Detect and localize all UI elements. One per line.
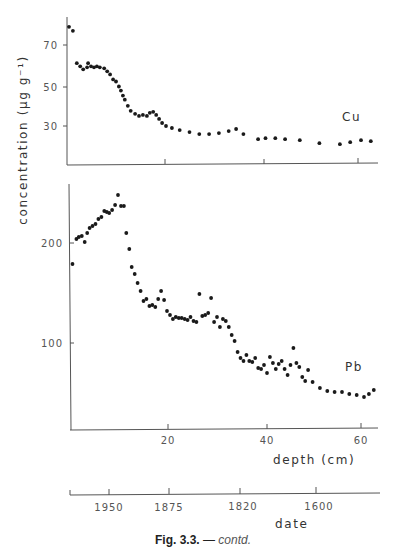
data-point [117,85,121,89]
data-point [245,353,249,357]
data-point [347,392,351,396]
data-point [102,66,106,70]
figure-canvas: concentration (μg g⁻¹) 70 50 30 Cu 200 1… [0,0,395,557]
data-point [333,390,337,394]
data-point [153,305,157,309]
data-point [124,231,128,235]
cu-series-label: Cu [342,110,361,124]
data-point [318,141,322,145]
data-point [318,386,322,390]
data-point [188,130,192,134]
data-point [100,215,104,219]
data-point [224,319,228,323]
pb-ytick-label-200: 200 [41,238,63,249]
data-point [227,129,231,133]
data-point [242,359,246,363]
data-point [168,313,172,317]
data-point [139,289,143,293]
data-point [207,132,211,136]
data-point [159,289,163,293]
pb-panel: 200 100 20 40 60 depth (cm) Pb [41,184,378,467]
data-point [86,61,90,65]
data-point [165,309,169,313]
data-point [123,98,127,102]
data-point [178,128,182,132]
data-point [259,367,263,371]
data-point [306,368,310,372]
data-point [362,395,366,399]
data-point [274,367,278,371]
data-point [218,325,222,329]
cu-x-axis [67,163,378,165]
data-point [340,390,344,394]
data-point [197,132,201,136]
data-point [286,373,290,377]
data-point [292,346,296,350]
data-point [186,318,190,322]
caption-dash: — [200,533,219,547]
data-point [154,113,158,117]
data-point [277,362,281,366]
data-point [121,94,125,98]
data-point [156,297,160,301]
data-point [189,315,193,319]
data-point [130,265,134,269]
data-point [271,361,275,365]
data-point [81,67,85,71]
data-point [298,138,302,142]
data-point [105,69,109,73]
pb-y-axis [69,184,71,430]
data-point [137,114,141,118]
data-point [164,124,168,128]
pb-data-points [71,193,376,399]
cu-panel: 70 50 30 Cu [43,17,378,165]
data-point [295,361,299,365]
cu-ytick-label-70: 70 [43,40,58,51]
data-point [233,339,237,343]
data-point [227,325,231,329]
caption-suffix: contd. [218,533,251,547]
cu-ytick-label-50: 50 [43,82,58,93]
pb-xtick-label-60: 60 [354,435,369,446]
data-point [367,392,371,396]
data-point [162,298,166,302]
caption-label: Fig. 3.3. [155,533,200,547]
data-point [110,208,114,212]
data-point [300,375,304,379]
data-point [151,110,155,114]
data-point [265,371,269,375]
data-point [212,320,216,324]
pb-series-label: Pb [345,360,363,374]
data-point [338,142,342,146]
data-point [195,320,199,324]
data-point [157,117,161,121]
data-point [129,109,133,113]
data-point [148,111,152,115]
date-tick-label-1950: 1950 [94,502,123,513]
figure-caption: Fig. 3.3. — contd. [155,533,251,547]
data-point [133,272,137,276]
data-point [273,136,277,140]
data-point [75,61,79,65]
data-point [230,333,234,337]
cu-data-points [67,25,373,146]
data-point [236,350,240,354]
data-point [348,140,352,144]
data-point [108,73,112,77]
data-point [289,363,293,367]
date-axis-line [70,493,380,495]
data-point [325,389,329,393]
data-point [264,136,268,140]
data-point [71,262,75,266]
data-point [122,204,126,208]
data-point [71,29,75,33]
data-point [160,121,164,125]
depth-axis-title: depth (cm) [273,453,355,467]
data-point [256,137,260,141]
data-point [113,203,117,207]
data-point [83,240,87,244]
date-tick-label-1875: 1875 [154,502,183,513]
data-point [85,231,89,235]
pb-xtick-label-40: 40 [260,435,275,446]
data-point [114,80,118,84]
